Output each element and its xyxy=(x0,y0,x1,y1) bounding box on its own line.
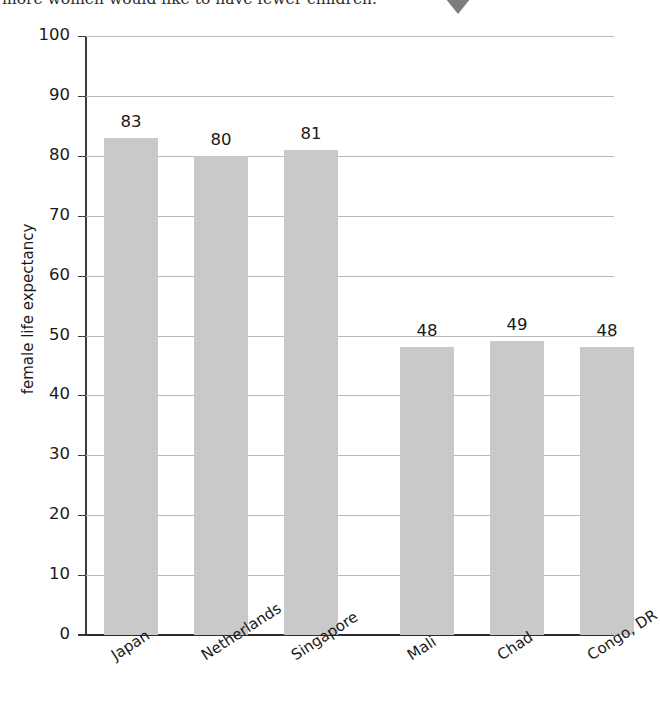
bar[interactable] xyxy=(104,138,158,635)
bar[interactable] xyxy=(284,150,338,635)
gridline-60 xyxy=(86,276,614,277)
y-tick-label: 60 xyxy=(8,265,70,284)
y-tick-100 xyxy=(78,36,86,37)
y-tick-label: 70 xyxy=(8,205,70,224)
y-tick-10 xyxy=(78,575,86,576)
bar-value-label: 48 xyxy=(392,321,462,340)
y-tick-20 xyxy=(78,515,86,516)
bar-value-label: 49 xyxy=(482,315,552,334)
bar[interactable] xyxy=(580,347,634,635)
bar-value-label: 48 xyxy=(572,321,642,340)
gridline-90 xyxy=(86,96,614,97)
bar-value-label: 80 xyxy=(186,130,256,149)
y-tick-label: 80 xyxy=(8,145,70,164)
y-tick-70 xyxy=(78,216,86,217)
bar-value-label: 81 xyxy=(276,124,346,143)
y-tick-label: 20 xyxy=(8,504,70,523)
bar[interactable] xyxy=(400,347,454,635)
bar-value-label: 83 xyxy=(96,112,166,131)
y-tick-label: 30 xyxy=(8,444,70,463)
gridline-100 xyxy=(86,36,614,37)
gridline-50 xyxy=(86,336,614,337)
y-tick-label: 50 xyxy=(8,325,70,344)
y-tick-50 xyxy=(78,336,86,337)
y-tick-60 xyxy=(78,276,86,277)
y-tick-80 xyxy=(78,156,86,157)
y-tick-90 xyxy=(78,96,86,97)
bar[interactable] xyxy=(194,156,248,635)
gridline-70 xyxy=(86,216,614,217)
y-tick-label: 100 xyxy=(8,25,70,44)
gridline-80 xyxy=(86,156,614,157)
y-tick-30 xyxy=(78,455,86,456)
y-tick-0 xyxy=(78,635,86,636)
category-label: Mali xyxy=(404,632,439,664)
y-tick-label: 0 xyxy=(8,624,70,643)
y-tick-label: 90 xyxy=(8,85,70,104)
y-tick-label: 40 xyxy=(8,384,70,403)
y-tick-40 xyxy=(78,395,86,396)
bar[interactable] xyxy=(490,341,544,635)
y-tick-label: 10 xyxy=(8,564,70,583)
